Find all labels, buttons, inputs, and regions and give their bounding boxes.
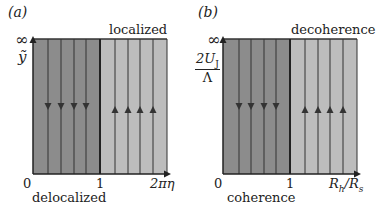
y-axis-label: ỹ — [18, 48, 26, 66]
x-tick-1: 1 — [96, 176, 104, 191]
x-tick-1: 1 — [286, 176, 294, 191]
delocalized-region — [33, 39, 100, 174]
x-tick-0: 0 — [214, 176, 222, 191]
y-axis-infinity-tick: ∞ — [15, 30, 28, 49]
coherence-label: coherence — [227, 190, 295, 205]
decoherence-label: decoherence — [291, 22, 375, 37]
decoherence-region — [290, 39, 357, 174]
y-axis-label-numerator: 2UJ — [195, 51, 220, 70]
coherence-region — [223, 39, 290, 174]
delocalized-label: delocalized — [32, 190, 106, 205]
panel-tag: (a) — [8, 4, 27, 20]
x-axis-label: Rh/Rs — [329, 176, 363, 194]
y-axis-infinity-tick: ∞ — [207, 30, 220, 49]
panel-a: (a) localized ∞ ỹ 0 1 2πη delocalized — [0, 0, 190, 211]
localized-region — [100, 39, 167, 174]
panel-tag: (b) — [198, 4, 218, 20]
y-axis-label-fraction: 2UJ Λ — [195, 51, 220, 85]
y-axis-label-denominator: Λ — [195, 70, 220, 85]
x-tick-0: 0 — [23, 176, 31, 191]
x-axis-label: 2πη — [150, 176, 175, 191]
localized-label: localized — [109, 22, 167, 37]
panel-b: (b) decoherence ∞ 2UJ Λ 0 1 Rh/Rs cohere… — [190, 0, 380, 211]
